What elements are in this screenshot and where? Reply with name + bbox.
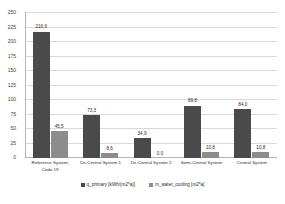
bar-wrapper: 73,3 bbox=[83, 12, 100, 158]
bar-group: 89,8 10,8 bbox=[176, 12, 226, 158]
y-axis-tick-label: 75 bbox=[0, 112, 16, 117]
bar-wrapper: 45,5 bbox=[51, 12, 68, 158]
y-axis-tick-label: 50 bbox=[0, 126, 16, 131]
chart-legend: q_primary [kWh/(m2*a)] m_water_cooling [… bbox=[0, 183, 285, 188]
bar-primary bbox=[83, 115, 100, 158]
bar-value-label: 84,0 bbox=[238, 103, 247, 108]
y-axis-tick-label: 25 bbox=[0, 141, 16, 146]
y-axis-tick-label: 200 bbox=[0, 39, 16, 44]
y-axis-tick-label: 175 bbox=[0, 54, 16, 59]
bar-primary bbox=[234, 109, 251, 158]
y-axis-tick-label: 100 bbox=[0, 97, 16, 102]
bar-value-label: 0,0 bbox=[157, 152, 163, 157]
x-axis-category-label: Central System bbox=[227, 160, 277, 173]
legend-item-secondary: m_water_cooling [m2*a] bbox=[149, 183, 204, 188]
bar-wrapper: 84,0 bbox=[234, 12, 251, 158]
x-axis-category-label: Reference System, Code 19 bbox=[25, 160, 75, 173]
bar-value-label: 8,6 bbox=[106, 147, 112, 152]
bar-group: 73,3 8,6 bbox=[75, 12, 125, 158]
y-axis-tick-label: 225 bbox=[0, 25, 16, 30]
bar-wrapper: 0,0 bbox=[152, 12, 169, 158]
x-axis-category-label: De-Central System 2 bbox=[126, 160, 176, 173]
legend-label: m_water_cooling [m2*a] bbox=[155, 183, 204, 188]
x-axis-labels: Reference System, Code 19 De-Central Sys… bbox=[25, 160, 277, 173]
bar-wrapper: 216,6 bbox=[33, 12, 50, 158]
bar-value-label: 89,8 bbox=[188, 99, 197, 104]
bar-primary bbox=[184, 106, 201, 158]
x-axis-category-label: Semi-Central System bbox=[176, 160, 226, 173]
bar-value-label: 45,5 bbox=[55, 125, 64, 130]
legend-swatch-icon bbox=[81, 183, 85, 187]
bar-group: 34,9 0,0 bbox=[126, 12, 176, 158]
bar-value-label: 73,3 bbox=[87, 109, 96, 114]
bar-groups: 216,6 45,5 73,3 8,6 34,9 bbox=[25, 12, 277, 158]
bar-wrapper: 34,9 bbox=[134, 12, 151, 158]
x-axis-category-label: De-Central System 1 bbox=[75, 160, 125, 173]
bar-secondary bbox=[202, 152, 219, 158]
bar-group: 216,6 45,5 bbox=[25, 12, 75, 158]
bar-wrapper: 10,8 bbox=[252, 12, 269, 158]
y-axis-tick-label: 125 bbox=[0, 83, 16, 88]
y-axis-tick-label: 150 bbox=[0, 68, 16, 73]
y-axis-tick-label: 250 bbox=[0, 10, 16, 15]
legend-item-primary: q_primary [kWh/(m2*a)] bbox=[81, 183, 136, 188]
bar-value-label: 34,9 bbox=[138, 132, 147, 137]
bar-primary bbox=[134, 138, 151, 158]
bar-value-label: 10,8 bbox=[206, 146, 215, 151]
bar-chart: 250 225 200 175 150 125 100 75 50 25 0 2… bbox=[0, 0, 285, 204]
bar-value-label: 216,6 bbox=[35, 25, 47, 30]
bar-primary bbox=[33, 32, 50, 158]
bar-wrapper: 8,6 bbox=[101, 12, 118, 158]
bar-group: 84,0 10,8 bbox=[227, 12, 277, 158]
bar-secondary bbox=[51, 131, 68, 158]
legend-swatch-icon bbox=[149, 183, 153, 187]
y-axis-tick-label: 0 bbox=[0, 155, 16, 160]
bar-value-label: 10,8 bbox=[256, 146, 265, 151]
bar-wrapper: 10,8 bbox=[202, 12, 219, 158]
legend-label: q_primary [kWh/(m2*a)] bbox=[87, 183, 136, 188]
bar-secondary bbox=[252, 152, 269, 158]
bar-wrapper: 89,8 bbox=[184, 12, 201, 158]
bar-secondary bbox=[101, 153, 118, 158]
